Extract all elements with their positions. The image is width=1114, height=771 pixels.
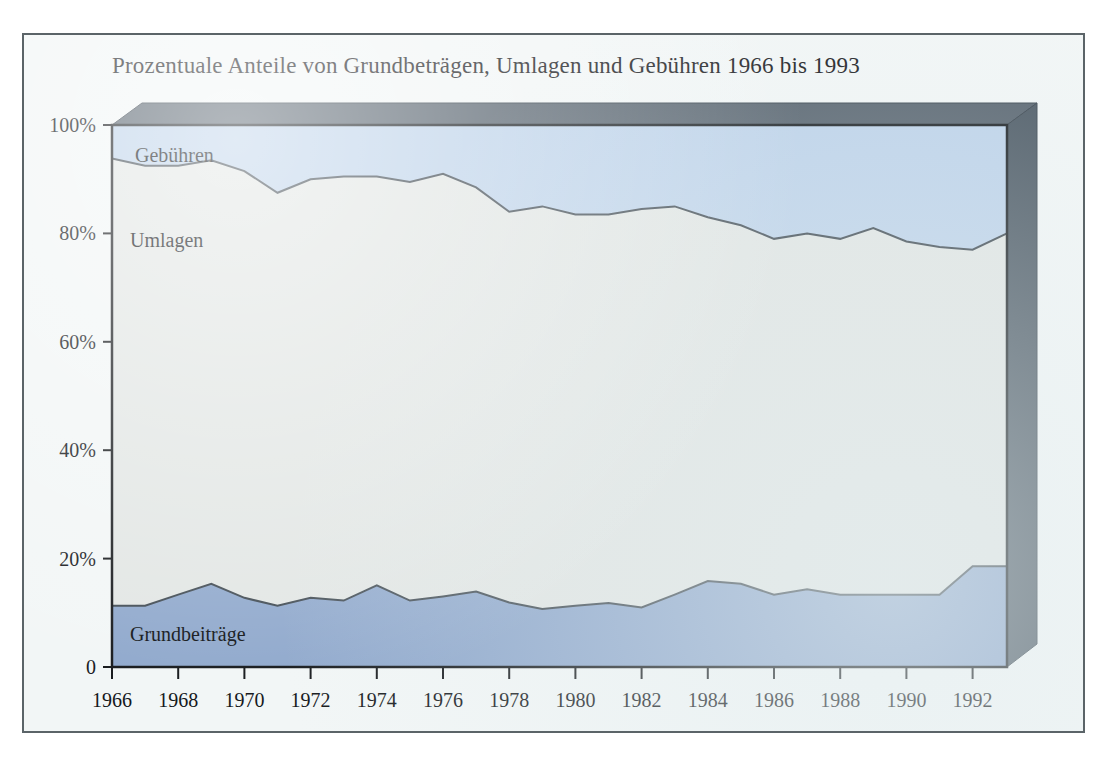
x-tick-label-1990: 1990: [886, 689, 926, 711]
x-tick-label-1968: 1968: [158, 689, 198, 711]
series-label-umlagen: Umlagen: [130, 229, 203, 252]
x-tick-label-1980: 1980: [555, 689, 595, 711]
y-tick-label-40: 40%: [59, 439, 96, 461]
y-tick-label-80: 80%: [59, 222, 96, 244]
x-tick-label-1986: 1986: [754, 689, 794, 711]
y-tick-label-100: 100%: [49, 114, 96, 136]
area-chart: 100% 80% 60% 40% 20% 0 1966 1968 1970 19…: [24, 35, 1085, 733]
y-axis-ticks: [103, 125, 112, 667]
x-tick-label-1970: 1970: [224, 689, 264, 711]
x-tick-label-1988: 1988: [820, 689, 860, 711]
x-tick-label-1972: 1972: [291, 689, 331, 711]
x-tick-label-1966: 1966: [92, 689, 132, 711]
x-tick-label-1992: 1992: [953, 689, 993, 711]
x-axis-ticks: [112, 667, 973, 679]
y-tick-label-60: 60%: [59, 331, 96, 353]
series-label-grundbeitraege: Grundbeiträge: [130, 623, 246, 646]
chart-extrusion-right: [1007, 103, 1037, 667]
chart-extrusion-top: [112, 103, 1037, 125]
x-tick-label-1978: 1978: [489, 689, 529, 711]
y-tick-label-20: 20%: [59, 548, 96, 570]
series-label-gebuehren: Gebühren: [135, 144, 214, 166]
x-tick-label-1974: 1974: [357, 689, 397, 711]
x-tick-label-1984: 1984: [688, 689, 728, 711]
y-tick-label-0: 0: [86, 656, 96, 678]
x-tick-label-1982: 1982: [622, 689, 662, 711]
figure-frame: Prozentuale Anteile von Grundbeträgen, U…: [22, 33, 1085, 733]
x-tick-label-1976: 1976: [423, 689, 463, 711]
